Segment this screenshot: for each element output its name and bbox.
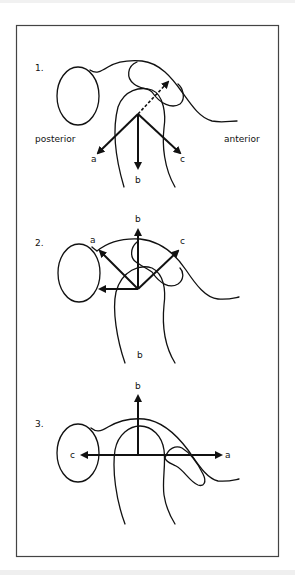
panel-2: 2. b a c b — [35, 214, 239, 363]
acromion-contour — [91, 419, 239, 482]
arrow-c — [138, 114, 180, 153]
bottom-label-b: b — [137, 350, 143, 360]
panel-2-number: 2. — [35, 238, 44, 248]
arrow-a-label: a — [225, 450, 231, 460]
humerus-outline — [114, 426, 175, 524]
tuberosity-loop — [165, 447, 205, 486]
arrow-a — [98, 114, 138, 153]
panel-1: 1. posterior anterior a b c — [35, 61, 260, 187]
label-anterior: anterior — [224, 134, 260, 144]
arrow-b-label: b — [135, 175, 141, 185]
arrow-a-label: a — [90, 235, 96, 245]
acromion-contour — [90, 61, 237, 122]
panel-1-number: 1. — [35, 63, 44, 73]
arrow-c-label: c — [70, 450, 75, 460]
label-posterior: posterior — [35, 134, 76, 144]
arrow-b-label: b — [135, 214, 141, 224]
tuberosity-loop — [132, 242, 183, 286]
tuberosity-loop — [129, 62, 184, 106]
arrow-c — [138, 251, 178, 289]
arrow-c-label: c — [180, 236, 185, 246]
glenoid-oval — [58, 244, 100, 302]
figure-frame — [17, 26, 279, 557]
arrow-b-label: b — [135, 381, 141, 391]
panel-3: 3. b c a — [35, 381, 239, 524]
glenoid-oval — [57, 67, 99, 125]
panel-3-number: 3. — [35, 419, 44, 429]
humerus-outline — [115, 89, 175, 187]
shoulder-movement-diagram: 1. posterior anterior a b c 2. — [0, 0, 295, 575]
acromion-contour — [92, 239, 239, 299]
arrow-a-label: a — [91, 154, 97, 164]
glenoid-oval — [57, 424, 99, 482]
bottom-edge — [0, 570, 295, 575]
arrow-c-label: c — [180, 154, 185, 164]
